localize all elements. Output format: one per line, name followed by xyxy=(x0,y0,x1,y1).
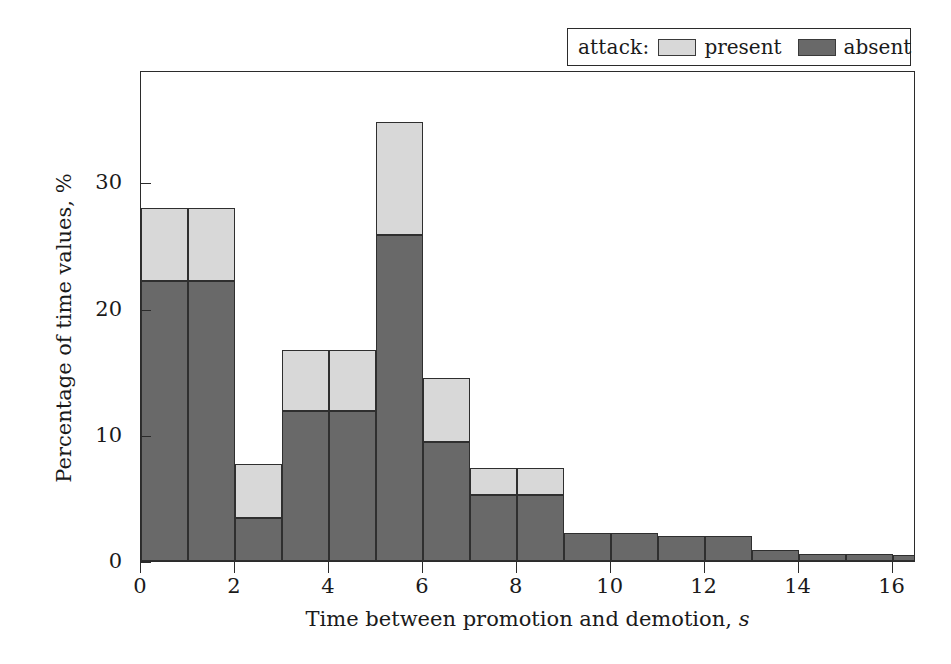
x-axis-tick xyxy=(610,562,611,573)
x-axis-tick-label: 2 xyxy=(194,576,274,597)
bar-segment-absent xyxy=(893,555,915,561)
plot-area xyxy=(141,72,914,561)
bar-segment-absent xyxy=(423,442,470,561)
legend-entry-present: present xyxy=(658,35,797,59)
x-axis-title: Time between promotion and demotion, s xyxy=(140,607,915,631)
bar-segment-present xyxy=(235,464,282,518)
bar-segment-absent xyxy=(235,518,282,561)
x-axis-tick xyxy=(516,562,517,573)
histogram-bar xyxy=(705,536,752,561)
bar-segment-present xyxy=(282,350,329,411)
histogram-bar xyxy=(564,533,611,561)
legend-swatch-absent-icon xyxy=(798,39,836,56)
histogram-bar xyxy=(141,208,188,561)
bar-segment-absent xyxy=(846,554,893,561)
y-axis-title: Percentage of time values, % xyxy=(52,98,76,558)
x-axis-tick xyxy=(140,562,141,573)
y-axis-tick xyxy=(140,436,151,437)
x-axis-tick xyxy=(234,562,235,573)
x-axis-title-unit: s xyxy=(739,607,750,631)
x-axis-tick-label: 16 xyxy=(852,576,932,597)
x-axis-tick-label: 4 xyxy=(288,576,368,597)
x-axis-tick-label: 14 xyxy=(758,576,838,597)
histogram-bar xyxy=(752,550,799,561)
histogram-bar xyxy=(893,555,915,561)
legend-title: attack: xyxy=(578,35,649,59)
bar-segment-absent xyxy=(752,550,799,561)
histogram-bar xyxy=(282,350,329,561)
x-axis-title-text: Time between promotion and demotion, xyxy=(306,607,732,631)
bar-segment-present xyxy=(141,208,188,281)
x-axis-tick-label: 12 xyxy=(664,576,744,597)
x-axis-tick-label: 8 xyxy=(476,576,556,597)
y-axis-tick xyxy=(140,310,151,311)
x-axis-tick xyxy=(422,562,423,573)
plot-frame xyxy=(140,71,915,562)
bar-segment-absent xyxy=(564,533,611,561)
histogram-bar xyxy=(376,122,423,561)
histogram-bar xyxy=(846,554,893,561)
bar-segment-absent xyxy=(705,536,752,561)
histogram-bar xyxy=(470,468,517,561)
bar-segment-present xyxy=(329,350,376,411)
x-axis-tick-label: 10 xyxy=(570,576,650,597)
histogram-figure: attack: present absent 0102030 024681012… xyxy=(0,0,951,664)
bar-segment-absent xyxy=(470,495,517,561)
bar-segment-absent xyxy=(611,533,658,561)
histogram-bar xyxy=(329,350,376,561)
bar-segment-absent xyxy=(188,281,235,561)
legend-label-present: present xyxy=(704,35,781,59)
bar-segment-absent xyxy=(376,235,423,561)
legend: attack: present absent xyxy=(567,28,911,66)
x-axis-tick xyxy=(704,562,705,573)
bar-segment-present xyxy=(470,468,517,496)
histogram-bar xyxy=(517,468,564,561)
bar-segment-absent xyxy=(282,411,329,561)
x-axis-tick xyxy=(328,562,329,573)
y-axis-tick xyxy=(140,183,151,184)
bar-segment-absent xyxy=(658,536,705,561)
histogram-bar xyxy=(658,536,705,561)
histogram-bar xyxy=(423,378,470,561)
x-axis-tick-label: 0 xyxy=(100,576,180,597)
histogram-bar xyxy=(799,554,846,561)
bar-segment-absent xyxy=(799,554,846,561)
legend-entry-absent: absent xyxy=(798,35,912,59)
histogram-bar xyxy=(611,533,658,561)
bar-segment-present xyxy=(517,468,564,496)
x-axis-tick xyxy=(798,562,799,573)
x-axis-tick-label: 6 xyxy=(382,576,462,597)
bar-segment-present xyxy=(423,378,470,442)
bar-segment-absent xyxy=(517,495,564,561)
y-axis-tick xyxy=(140,562,151,563)
legend-swatch-present-icon xyxy=(658,39,696,56)
x-axis-tick xyxy=(892,562,893,573)
bar-segment-present xyxy=(376,122,423,236)
histogram-bar xyxy=(235,464,282,561)
bar-segment-present xyxy=(188,208,235,281)
bar-segment-absent xyxy=(141,281,188,561)
histogram-bar xyxy=(188,208,235,561)
legend-label-absent: absent xyxy=(844,35,912,59)
bar-segment-absent xyxy=(329,411,376,561)
